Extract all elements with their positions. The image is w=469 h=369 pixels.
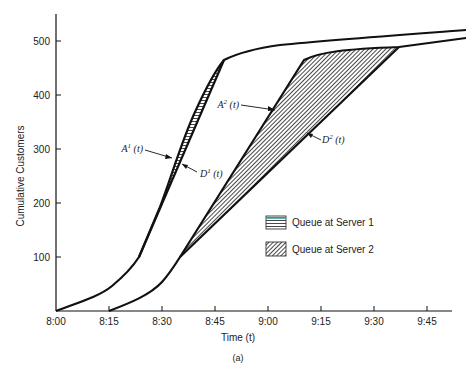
legend-item-server-2: Queue at Server 2 bbox=[266, 242, 374, 256]
svg-text:D2 (t): D2 (t) bbox=[321, 133, 345, 146]
legend-label-server-2: Queue at Server 2 bbox=[292, 244, 374, 255]
legend-swatch-diagonal-hatch bbox=[266, 242, 286, 256]
annotation-a2: A2 (t) bbox=[216, 98, 275, 111]
x-tick-900: 9:00 bbox=[258, 316, 278, 327]
annotation-d1: D1 (t) bbox=[182, 164, 223, 180]
y-tick-labels: 100 200 300 400 500 bbox=[33, 36, 50, 263]
y-axis-title: Cumulative Customers bbox=[15, 125, 26, 226]
svg-text:A2 (t): A2 (t) bbox=[216, 98, 239, 111]
x-axis-title: Time (t) bbox=[221, 332, 255, 343]
figure-caption: (a) bbox=[233, 353, 244, 363]
svg-text:D1 (t): D1 (t) bbox=[199, 167, 223, 180]
y-tick-300: 300 bbox=[33, 144, 50, 155]
legend-label-server-1: Queue at Server 1 bbox=[292, 217, 374, 228]
x-tick-815: 8:15 bbox=[99, 316, 119, 327]
y-tick-200: 200 bbox=[33, 198, 50, 209]
annotation-a1: A1 (t) bbox=[120, 142, 172, 159]
legend: Queue at Server 1 Queue at Server 2 bbox=[266, 216, 374, 256]
y-tick-100: 100 bbox=[33, 252, 50, 263]
x-tick-930: 9:30 bbox=[364, 316, 384, 327]
x-tick-labels: 8:00 8:15 8:30 8:45 9:00 9:15 9:30 9:45 bbox=[46, 316, 437, 327]
x-ticks bbox=[109, 306, 427, 311]
y-tick-500: 500 bbox=[33, 36, 50, 47]
y-ticks bbox=[56, 41, 61, 257]
x-tick-845: 8:45 bbox=[205, 316, 225, 327]
x-tick-945: 9:45 bbox=[417, 316, 437, 327]
y-tick-400: 400 bbox=[33, 90, 50, 101]
x-tick-915: 9:15 bbox=[311, 316, 331, 327]
curve-a2 bbox=[109, 38, 466, 311]
svg-text:A1 (t): A1 (t) bbox=[120, 142, 143, 155]
x-tick-830: 8:30 bbox=[152, 316, 172, 327]
x-tick-800: 8:00 bbox=[46, 316, 66, 327]
annotation-d2: D2 (t) bbox=[307, 133, 345, 146]
legend-item-server-1: Queue at Server 1 bbox=[266, 216, 374, 229]
cumulative-customers-chart: 100 200 300 400 500 8:00 8:15 8:30 8:45 … bbox=[0, 0, 469, 369]
